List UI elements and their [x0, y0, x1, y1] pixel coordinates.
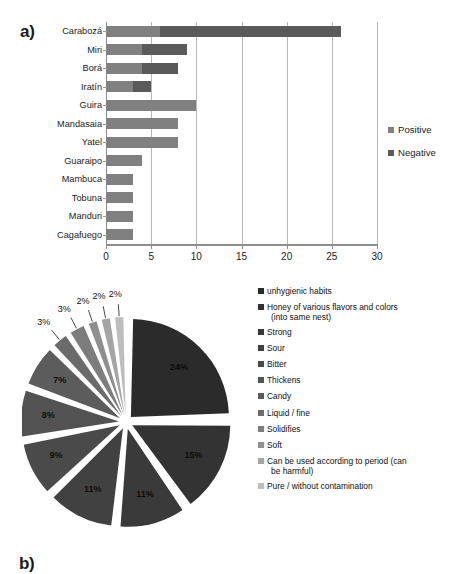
pie-value-label: 8%	[42, 410, 55, 420]
bar-legend-label: Positive	[398, 124, 432, 135]
bar-legend-item-positive: Positive	[388, 124, 436, 135]
legend-swatch-icon	[258, 304, 264, 310]
pie-value-label: 11%	[136, 489, 154, 499]
pie-legend-label: Soft	[267, 440, 282, 450]
pie-legend-item: Strong	[258, 327, 456, 337]
bar-chart-y-tick	[103, 124, 107, 125]
bar-chart-x-tick-label: 30	[365, 251, 389, 262]
pie-legend-label: unhygienic habits	[267, 286, 332, 296]
bar-chart-bar	[106, 174, 377, 185]
bar-segment-positive	[106, 63, 142, 74]
pie-chart-svg	[22, 282, 250, 552]
legend-swatch-icon	[388, 127, 394, 133]
pie-legend-item: Bitter	[258, 359, 456, 369]
panel-a-bar-chart: a) CarabozáMiriBoráIratínGuiraMandasaiaY…	[0, 0, 458, 272]
pie-legend-label: Liquid / fine	[267, 408, 310, 418]
bar-chart-category-label: Carabozá	[30, 26, 102, 36]
pie-legend-label: Sour	[267, 343, 285, 353]
bar-segment-negative	[160, 26, 341, 37]
bar-chart-y-tick	[103, 87, 107, 88]
pie-legend-item: Pure / without contamination	[258, 481, 456, 491]
bar-segment-positive	[106, 137, 178, 148]
bar-chart-y-tick	[103, 31, 107, 32]
bar-chart-category-label: Yatel	[30, 137, 102, 147]
pie-chart-graphic: 24%15%11%11%9%8%7%3%3%2%2%2%	[22, 282, 250, 552]
pie-leader-line	[71, 318, 77, 329]
legend-swatch-icon	[258, 377, 264, 383]
pie-legend-label: Candy	[267, 391, 291, 401]
legend-swatch-icon	[258, 345, 264, 351]
bar-chart-y-tick	[103, 179, 107, 180]
bar-chart-x-tick	[106, 244, 107, 249]
pie-leader-line	[88, 310, 92, 321]
panel-b-label: b)	[19, 554, 34, 574]
pie-legend-label: Can be used according to period (canbe h…	[267, 456, 407, 476]
pie-legend-label: Solidifies	[267, 424, 301, 434]
pie-legend-label: Strong	[267, 327, 292, 337]
pie-chart-legend: unhygienic habitsHoney of various flavor…	[258, 286, 456, 497]
bar-chart-y-tick	[103, 105, 107, 106]
bar-chart-gridline	[377, 22, 378, 244]
bar-chart-y-tick	[103, 161, 107, 162]
pie-legend-label-continuation: be harmful)	[267, 466, 407, 476]
legend-swatch-icon	[258, 483, 264, 489]
bar-chart-category-label: Mandasaia	[30, 119, 102, 129]
bar-chart-bar	[106, 155, 377, 166]
bar-chart-bar	[106, 100, 377, 111]
pie-legend-item: Can be used according to period (canbe h…	[258, 456, 456, 476]
pie-leader-line	[118, 304, 119, 316]
pie-legend-item: Liquid / fine	[258, 408, 456, 418]
bar-chart-bar	[106, 137, 377, 148]
bar-chart-category-label: Iratín	[30, 82, 102, 92]
pie-legend-item: Solidifies	[258, 424, 456, 434]
pie-legend-label: Thickens	[267, 375, 301, 385]
bar-chart-bar	[106, 44, 377, 55]
bar-chart-y-tick	[103, 142, 107, 143]
bar-segment-positive	[106, 174, 133, 185]
bar-segment-positive	[106, 229, 133, 240]
bar-chart-category-axis: CarabozáMiriBoráIratínGuiraMandasaiaYate…	[30, 22, 102, 244]
pie-legend-item: unhygienic habits	[258, 286, 456, 296]
bar-segment-negative	[142, 63, 178, 74]
pie-legend-label: Bitter	[267, 359, 287, 369]
pie-value-label: 2%	[109, 289, 122, 299]
bar-chart-category-label: Guira	[30, 100, 102, 110]
bar-chart-category-label: Manduri	[30, 211, 102, 221]
bar-segment-negative	[142, 44, 187, 55]
pie-value-label: 15%	[184, 450, 202, 460]
legend-swatch-icon	[258, 393, 264, 399]
pie-value-label: 24%	[170, 362, 188, 372]
pie-value-label: 2%	[77, 296, 90, 306]
legend-swatch-icon	[258, 361, 264, 367]
bar-chart-category-label: Mambuca	[30, 174, 102, 184]
bar-segment-positive	[106, 211, 133, 222]
pie-value-label: 2%	[92, 291, 105, 301]
pie-legend-item: Thickens	[258, 375, 456, 385]
bar-segment-positive	[106, 118, 178, 129]
bar-chart-x-tick-label: 0	[94, 251, 118, 262]
bar-chart-plot-area	[106, 22, 377, 244]
bar-chart-x-tick	[196, 244, 197, 249]
bar-chart-y-tick	[103, 50, 107, 51]
bar-segment-negative	[133, 81, 151, 92]
bar-chart-bar	[106, 63, 377, 74]
pie-legend-item: Honey of various flavors and colors(into…	[258, 302, 456, 322]
bar-chart-x-tick-label: 15	[230, 251, 254, 262]
pie-legend-label-continuation: (into same nest)	[267, 312, 398, 322]
bar-legend-label: Negative	[398, 147, 436, 158]
bar-segment-positive	[106, 155, 142, 166]
bar-legend-item-negative: Negative	[388, 147, 436, 158]
bar-chart-category-label: Miri	[30, 45, 102, 55]
bar-segment-positive	[106, 44, 142, 55]
bar-chart-category-label: Cagafuego	[30, 230, 102, 240]
pie-legend-item: Sour	[258, 343, 456, 353]
bar-chart-bar	[106, 118, 377, 129]
pie-legend-label: Pure / without contamination	[267, 481, 373, 491]
bar-chart-category-label: Borá	[30, 63, 102, 73]
legend-swatch-icon	[258, 442, 264, 448]
bar-chart-x-tick	[332, 244, 333, 249]
pie-leader-line	[103, 306, 105, 318]
bar-segment-positive	[106, 26, 160, 37]
bar-chart-bar	[106, 229, 377, 240]
pie-legend-item: Candy	[258, 391, 456, 401]
